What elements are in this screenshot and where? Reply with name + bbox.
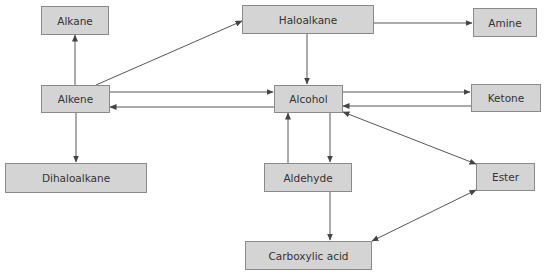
arrow-alkene-to-haloalkane [96, 21, 242, 85]
node-haloalkane: Haloalkane [242, 5, 374, 34]
node-alkene: Alkene [41, 85, 110, 113]
node-aldehyde: Aldehyde [264, 163, 352, 192]
node-amine: Amine [473, 8, 537, 37]
node-dihaloalkane: Dihaloalkane [5, 163, 147, 193]
arrow-alcohol-ester-bidirectional [343, 112, 476, 164]
node-ester: Ester [476, 163, 535, 191]
reaction-arrows [0, 0, 550, 277]
node-alkane: Alkane [41, 6, 109, 35]
node-carboxylic-acid: Carboxylic acid [245, 241, 372, 270]
node-ketone: Ketone [471, 84, 541, 112]
arrow-carboxylic-acid-ester-bidirectional [372, 190, 476, 241]
node-alcohol: Alcohol [274, 85, 343, 113]
